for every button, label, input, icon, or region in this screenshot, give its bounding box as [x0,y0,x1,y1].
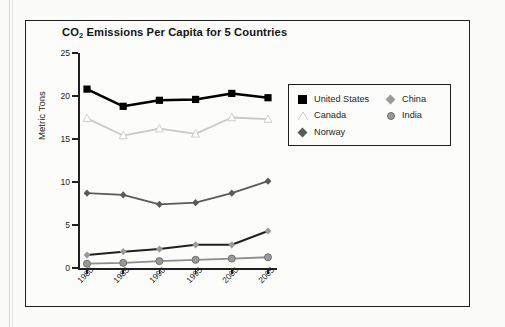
chart-title: CO2 Emissions Per Capita for 5 Countries [62,26,287,38]
legend-item: Norway [296,124,369,141]
filled-square-marker [296,93,309,106]
legend-item: United States [296,91,369,108]
legend-item: China [384,91,426,108]
y-axis-tick-label: 10 [52,177,70,187]
y-axis-tick-label: 25 [52,48,70,58]
legend-item: India [384,108,426,125]
legend-column-left: United StatesCanadaNorway [296,91,369,141]
legend-label: China [402,95,426,104]
y-axis-tick-label: 0 [52,263,70,273]
chart-title-prefix: CO [62,26,79,38]
y-axis-tick-label: 20 [52,91,70,101]
page-margin-rule [9,0,10,327]
legend-label: India [402,111,422,120]
legend-label: Canada [314,111,346,120]
legend-marker-glyph [386,94,396,104]
y-axis-tick [72,224,78,226]
y-axis-tick [72,52,78,54]
legend-label: United States [314,95,369,104]
y-axis-tick-label: 5 [52,220,70,230]
open-triangle-marker [296,109,309,122]
chart-legend: United StatesCanadaNorway ChinaIndia [288,84,451,146]
y-axis-tick [72,95,78,97]
y-axis-line [78,53,80,269]
legend-marker-glyph [298,112,308,120]
legend-label: Norway [314,128,345,137]
y-axis-title: Metric Tons [36,91,47,140]
legend-item: Canada [296,108,369,125]
filled-diamond-marker [296,126,309,139]
page-margin-rule-secondary [12,0,13,327]
chart-title-subscript: 2 [79,31,83,40]
chart-title-main: Emissions Per Capita for 5 Countries [87,26,288,38]
x-axis-line [78,268,277,270]
legend-marker-glyph [298,127,308,137]
legend-column-right: ChinaIndia [384,91,426,124]
y-axis-tick-label: 15 [52,134,70,144]
legend-marker-glyph [387,112,395,120]
legend-marker-glyph [298,95,307,104]
y-axis-tick [72,181,78,183]
y-axis-tick [72,138,78,140]
y-axis-tick [72,267,78,269]
figure-frame [25,20,470,307]
filled-circle-marker [384,109,397,122]
filled-diamond-marker [384,93,397,106]
